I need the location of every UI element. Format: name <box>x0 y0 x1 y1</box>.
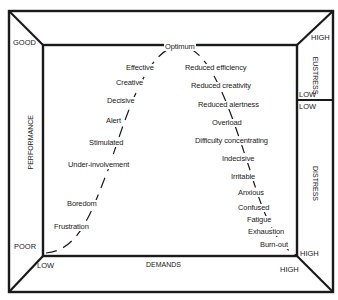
curve-label-frustration: Frustration <box>54 223 89 231</box>
demands-axis-title: DEMANDS <box>146 261 181 268</box>
curve-label-anxious: Anxious <box>238 189 264 197</box>
performance-good-label: GOOD <box>13 39 36 47</box>
curve-peak-label: Optimum <box>164 43 196 51</box>
demands-low-label: LOW <box>37 262 54 270</box>
curve-label-indecisive: Indecisive <box>222 155 254 163</box>
stress-performance-diagram: GOOD POOR PERFORMANCE LOW DEMANDS HIGH H… <box>0 0 338 300</box>
curve-label-effective: Effective <box>126 64 154 72</box>
curve-label-under-involvement: Under-involvement <box>68 161 129 169</box>
curve-label-reduced-alertness: Reduced alertness <box>198 101 259 109</box>
curve-label-overload: Overload <box>212 119 242 127</box>
curve-label-fatigue: Fatigue <box>247 216 271 224</box>
curve-label-reduced-efficiency: Reduced efficiency <box>185 64 246 72</box>
eustress-high-label: HIGH <box>311 34 330 42</box>
curve-label-irritable: Irritable <box>231 173 255 181</box>
distress-high-corner-label: HIGH <box>300 250 319 258</box>
distress-title: DISTRESS <box>312 159 319 209</box>
distress-low-label: LOW <box>299 103 316 111</box>
curve-label-confused: Confused <box>238 204 269 212</box>
demands-high-label: HIGH <box>280 266 299 274</box>
curve-label-stimulated: Stimulated <box>89 139 123 147</box>
curve-label-burn-out: Burn-out <box>260 241 288 249</box>
curve-label-alert: Alert <box>106 117 121 125</box>
eustress-low-label: LOW <box>299 91 316 99</box>
curve-label-difficulty-concentrating: Difficulty concentrating <box>195 137 268 145</box>
curve-label-boredom: Boredom <box>67 200 97 208</box>
curve-label-reduced-creativity: Reduced creativity <box>191 82 251 90</box>
curve-label-creative: Creative <box>116 79 143 87</box>
performance-axis-title: PERFORMANCE <box>27 118 34 170</box>
curve-label-decisive: Decisive <box>107 97 135 105</box>
performance-poor-label: POOR <box>14 243 36 251</box>
curve-label-exhaustion: Exhaustion <box>248 228 284 236</box>
